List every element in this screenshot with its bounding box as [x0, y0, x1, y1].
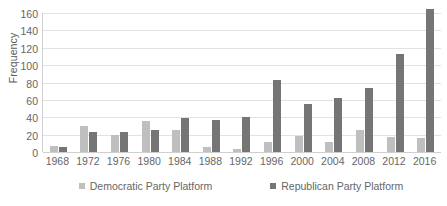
- bar-democratic-2012[interactable]: [387, 137, 395, 152]
- bar-group-2004: [318, 13, 349, 152]
- frequency-bar-chart: Frequency 160140120100806040200 19681972…: [0, 0, 447, 206]
- bar-group-1976: [104, 13, 135, 152]
- legend-swatch-icon: [270, 183, 276, 189]
- bar-group-1992: [227, 13, 258, 152]
- bar-republican-2008[interactable]: [365, 88, 373, 152]
- x-axis-tick-label-2004: 2004: [317, 155, 348, 167]
- bar-republican-2000[interactable]: [304, 104, 312, 152]
- bar-group-1972: [74, 13, 105, 152]
- y-axis-tick-label: 60: [26, 95, 38, 107]
- bar-group-2016: [410, 13, 441, 152]
- bar-republican-1968[interactable]: [59, 147, 67, 152]
- bar-republican-1980[interactable]: [151, 130, 159, 152]
- bar-democratic-1980[interactable]: [142, 121, 150, 152]
- bar-democratic-1976[interactable]: [111, 135, 119, 152]
- bar-democratic-1968[interactable]: [50, 146, 58, 152]
- x-axis-tick-label-1984: 1984: [164, 155, 195, 167]
- legend-label: Republican Party Platform: [281, 180, 403, 192]
- bar-group-1988: [196, 13, 227, 152]
- x-axis-tick-label-2008: 2008: [348, 155, 379, 167]
- bar-group-1968: [43, 13, 74, 152]
- y-axis-tick-label: 0: [32, 147, 38, 159]
- x-axis-tick-labels: 1968197219761980198419881992199620002004…: [42, 155, 440, 167]
- bar-democratic-2008[interactable]: [356, 130, 364, 152]
- legend-label: Democratic Party Platform: [90, 180, 213, 192]
- bar-republican-2012[interactable]: [396, 54, 404, 152]
- bar-republican-2016[interactable]: [426, 9, 434, 152]
- bar-democratic-1996[interactable]: [264, 142, 272, 152]
- bar-group-2000: [288, 13, 319, 152]
- y-axis-tick-label: 120: [20, 43, 38, 55]
- y-axis-tick-label: 160: [20, 8, 38, 20]
- x-axis-tick-label-2016: 2016: [409, 155, 440, 167]
- bar-republican-1988[interactable]: [212, 120, 220, 152]
- x-axis-tick-label-2000: 2000: [287, 155, 318, 167]
- bar-republican-1996[interactable]: [273, 80, 281, 152]
- bar-democratic-1992[interactable]: [233, 149, 241, 152]
- x-axis-tick-label-1996: 1996: [256, 155, 287, 167]
- bar-group-container: [43, 13, 441, 152]
- bar-democratic-2000[interactable]: [295, 136, 303, 153]
- bar-republican-1976[interactable]: [120, 132, 128, 152]
- chart-legend: Democratic Party PlatformRepublican Part…: [42, 180, 440, 192]
- x-axis-tick-label-1976: 1976: [103, 155, 134, 167]
- x-axis-tick-label-1980: 1980: [134, 155, 165, 167]
- x-axis-tick-label-1968: 1968: [42, 155, 73, 167]
- x-axis-tick-label-1988: 1988: [195, 155, 226, 167]
- bar-group-1980: [135, 13, 166, 152]
- plot-area: 160140120100806040200: [42, 13, 441, 152]
- y-axis-tick-label: 20: [26, 130, 38, 142]
- y-axis-tick-label: 40: [26, 112, 38, 124]
- legend-item-democratic[interactable]: Democratic Party Platform: [79, 180, 213, 192]
- x-axis-tick-label-1992: 1992: [226, 155, 257, 167]
- bar-democratic-2004[interactable]: [325, 142, 333, 152]
- bar-democratic-1984[interactable]: [172, 130, 180, 152]
- legend-item-republican[interactable]: Republican Party Platform: [270, 180, 403, 192]
- gridline-0: 0: [43, 152, 441, 153]
- y-axis-tick-label: 140: [20, 25, 38, 37]
- bar-group-1984: [165, 13, 196, 152]
- bar-republican-1984[interactable]: [181, 118, 189, 152]
- y-axis-tick-label: 100: [20, 60, 38, 72]
- y-axis-title: Frequency: [7, 19, 19, 97]
- x-axis-tick-label-2012: 2012: [379, 155, 410, 167]
- bar-group-2012: [380, 13, 411, 152]
- bar-group-2008: [349, 13, 380, 152]
- bar-group-1996: [257, 13, 288, 152]
- bar-democratic-1988[interactable]: [203, 147, 211, 152]
- bar-republican-1972[interactable]: [89, 132, 97, 152]
- legend-swatch-icon: [79, 183, 85, 189]
- bar-republican-2004[interactable]: [334, 98, 342, 152]
- bar-democratic-1972[interactable]: [80, 126, 88, 152]
- x-axis-tick-label-1972: 1972: [73, 155, 104, 167]
- y-axis-tick-label: 80: [26, 78, 38, 90]
- bar-republican-1992[interactable]: [242, 117, 250, 152]
- bar-democratic-2016[interactable]: [417, 138, 425, 152]
